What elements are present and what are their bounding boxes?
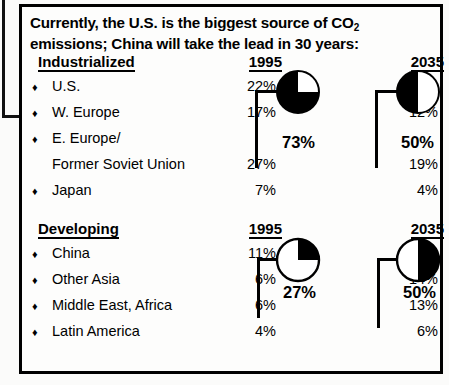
- bullet-icon: ♦: [30, 108, 52, 119]
- bullet-icon: ♦: [30, 82, 52, 93]
- table-row: ♦ Middle East, Africa 6% 13%: [30, 297, 432, 323]
- row-value-1995: 4%: [218, 323, 276, 339]
- table-row: ♦ China 11% 17%: [30, 245, 432, 271]
- page-title: Currently, the U.S. is the biggest sourc…: [30, 13, 432, 34]
- section-header-industrialized: Industrialized 1995 2035: [30, 53, 432, 78]
- row-value-1995: 7%: [218, 182, 276, 198]
- section-heading: Developing: [30, 220, 224, 237]
- slide-frame: Currently, the U.S. is the biggest sourc…: [19, 4, 443, 374]
- pie-label-industrialized-2035: 50%: [401, 133, 434, 152]
- row-label: Other Asia: [52, 271, 218, 287]
- section-industrialized: Industrialized 1995 2035 ♦ U.S. 22% 15% …: [30, 53, 432, 208]
- bracket-industrialized-2035: [375, 90, 397, 168]
- pie-chart-industrialized-2035: [395, 69, 441, 119]
- row-value-2035: 4%: [386, 182, 438, 198]
- pie-label-developing-2035: 50%: [403, 283, 436, 302]
- bullet-icon: ♦: [30, 327, 52, 338]
- section-spacer: [30, 208, 432, 220]
- table-row: ♦ Latin America 4% 6%: [30, 323, 432, 349]
- row-label: W. Europe: [52, 104, 218, 120]
- row-label: Former Soviet Union: [52, 156, 218, 172]
- pie-label-developing-1995: 27%: [283, 283, 316, 302]
- table-row: ♦ Japan 7% 4%: [30, 182, 432, 208]
- row-label: Middle East, Africa: [52, 297, 218, 313]
- pie-chart-industrialized-1995: [275, 69, 321, 119]
- row-label: E. Europe/: [52, 130, 218, 146]
- row-label: China: [52, 245, 218, 261]
- column-header-1995: 1995: [224, 220, 282, 237]
- bracket-developing-1995: [257, 258, 277, 318]
- co2-subscript: 2: [354, 22, 359, 33]
- bullet-icon: ♦: [30, 249, 52, 260]
- bullet-icon: ♦: [30, 275, 52, 286]
- title-line-1: Currently, the U.S. is the biggest sourc…: [30, 14, 354, 31]
- title-line-2: emissions; China will take the lead in 3…: [30, 34, 432, 53]
- column-header-1995: 1995: [224, 53, 282, 70]
- table-row: Former Soviet Union 27% 19%: [30, 156, 432, 182]
- bracket-industrialized-1995: [255, 90, 277, 168]
- pie-chart-developing-2035: [395, 237, 441, 287]
- bullet-icon: ♦: [30, 134, 52, 145]
- row-label: U.S.: [52, 78, 218, 94]
- bracket-developing-2035: [377, 258, 397, 328]
- table-row: ♦ Other Asia 6% 14%: [30, 271, 432, 297]
- bullet-icon: ♦: [30, 301, 52, 312]
- table-row: ♦ E. Europe/: [30, 130, 432, 156]
- slide-background: Currently, the U.S. is the biggest sourc…: [0, 0, 449, 385]
- row-label: Japan: [52, 182, 218, 198]
- row-label: Latin America: [52, 323, 218, 339]
- section-developing: Developing 1995 2035 ♦ China 11% 17% ♦ O…: [30, 220, 432, 349]
- column-header-2035: 2035: [392, 53, 444, 70]
- section-heading: Industrialized: [30, 53, 224, 70]
- section-header-developing: Developing 1995 2035: [30, 220, 432, 245]
- bullet-icon: ♦: [30, 186, 52, 197]
- pie-label-industrialized-1995: 73%: [282, 133, 315, 152]
- column-header-2035: 2035: [392, 220, 444, 237]
- pie-chart-developing-1995: [275, 237, 321, 287]
- table-row: ♦ W. Europe 17% 12%: [30, 104, 432, 130]
- table-row: ♦ U.S. 22% 15%: [30, 78, 432, 104]
